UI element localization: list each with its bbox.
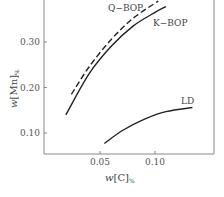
y-axis-label: w[Mn]% <box>8 69 20 108</box>
x-tick-label: 0.05 <box>90 157 110 167</box>
series-label-qbop: Q−BOP <box>108 3 143 13</box>
chart: 0.050.100.100.200.30 Q−BOP K−BOP LD w[C]… <box>0 0 224 197</box>
y-tick-label: 0.10 <box>20 128 40 138</box>
series-label-kbop: K−BOP <box>153 18 187 28</box>
y-tick-label: 0.30 <box>20 37 40 47</box>
series-label-ld: LD <box>181 96 194 106</box>
plot-frame <box>44 0 214 154</box>
x-tick-label: 0.10 <box>145 157 165 167</box>
series-line-kbop <box>66 7 166 115</box>
y-tick-label: 0.20 <box>20 83 40 93</box>
axis-ticks: 0.050.100.100.200.30 <box>20 37 165 167</box>
series-line-ld <box>104 108 192 144</box>
x-axis-label: w[C]% <box>105 172 135 184</box>
